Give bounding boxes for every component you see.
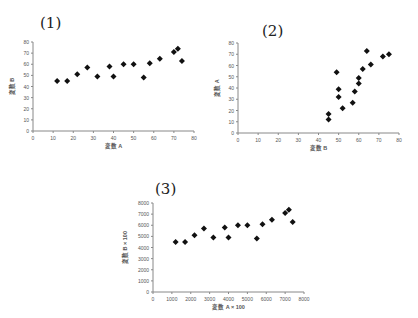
chart-1: 0102030405060708001020304050607080変数 A変数… bbox=[0, 0, 418, 318]
x-axis-label: 変数 B bbox=[310, 144, 328, 152]
data-point-marker bbox=[141, 75, 147, 81]
y-tick-label: 5000 bbox=[138, 233, 149, 239]
x-tick-label: 10 bbox=[255, 137, 261, 143]
y-tick-label: 50 bbox=[23, 72, 29, 78]
data-point-marker bbox=[111, 73, 117, 79]
data-point-marker bbox=[350, 100, 356, 106]
data-point-marker bbox=[226, 234, 232, 240]
data-point-marker bbox=[131, 61, 137, 67]
y-tick-label: 60 bbox=[228, 63, 234, 69]
data-point-marker bbox=[352, 88, 358, 94]
y-tick-label: 7000 bbox=[138, 211, 149, 217]
x-tick-label: 1000 bbox=[166, 296, 177, 302]
y-tick-label: 0 bbox=[146, 289, 149, 295]
data-point-marker bbox=[192, 232, 198, 238]
x-tick-label: 70 bbox=[171, 135, 177, 141]
y-tick-label: 10 bbox=[228, 119, 234, 125]
y-tick-label: 40 bbox=[23, 84, 29, 90]
y-tick-label: 30 bbox=[23, 95, 29, 101]
data-point-marker bbox=[269, 217, 275, 223]
y-axis-label: 変数 B bbox=[8, 78, 16, 96]
data-point-marker bbox=[182, 239, 188, 245]
y-tick-label: 4000 bbox=[138, 245, 149, 251]
x-tick-label: 2000 bbox=[185, 296, 196, 302]
data-point-marker bbox=[326, 111, 332, 117]
x-tick-label: 80 bbox=[191, 135, 197, 141]
data-point-marker bbox=[147, 60, 153, 66]
y-tick-label: 2000 bbox=[138, 267, 149, 273]
y-tick-label: 6000 bbox=[138, 222, 149, 228]
y-tick-label: 30 bbox=[228, 96, 234, 102]
data-point-marker bbox=[106, 63, 112, 69]
x-tick-label: 40 bbox=[111, 135, 117, 141]
x-tick-label: 4000 bbox=[223, 296, 234, 302]
y-tick-label: 80 bbox=[23, 39, 29, 45]
scatter-plot-3: 0100020003000400050006000700080000100020… bbox=[121, 200, 310, 311]
data-point-marker bbox=[360, 66, 366, 72]
x-axis-label: 変数 A bbox=[105, 142, 123, 150]
scatter-plot-2: 0102030405060708001020304050607080変数 B変数… bbox=[213, 40, 402, 152]
y-tick-label: 3000 bbox=[138, 256, 149, 262]
data-point-marker bbox=[175, 46, 181, 52]
y-tick-label: 0 bbox=[231, 130, 234, 136]
data-point-marker bbox=[74, 71, 80, 77]
data-point-marker bbox=[254, 236, 260, 242]
x-tick-label: 30 bbox=[296, 137, 302, 143]
data-point-marker bbox=[171, 49, 177, 55]
data-point-marker bbox=[179, 58, 185, 64]
data-point-marker bbox=[259, 221, 265, 227]
data-point-marker bbox=[336, 94, 342, 100]
y-tick-label: 1000 bbox=[138, 278, 149, 284]
data-point-marker bbox=[290, 219, 296, 225]
data-point-marker bbox=[173, 239, 179, 245]
x-tick-label: 0 bbox=[32, 135, 35, 141]
data-point-marker bbox=[386, 51, 392, 57]
x-tick-label: 8000 bbox=[298, 296, 309, 302]
data-point-marker bbox=[84, 65, 90, 71]
data-point-marker bbox=[210, 234, 216, 240]
data-point-marker bbox=[368, 61, 374, 67]
x-tick-label: 20 bbox=[275, 137, 281, 143]
data-point-marker bbox=[244, 222, 250, 228]
data-point-marker bbox=[336, 86, 342, 92]
x-tick-label: 40 bbox=[316, 137, 322, 143]
y-tick-label: 20 bbox=[228, 108, 234, 114]
y-tick-label: 40 bbox=[228, 85, 234, 91]
x-tick-label: 5000 bbox=[242, 296, 253, 302]
x-tick-label: 70 bbox=[376, 137, 382, 143]
x-axis-label: 変数 A × 100 bbox=[212, 303, 245, 311]
data-point-marker bbox=[326, 117, 332, 123]
data-point-marker bbox=[364, 48, 370, 54]
x-tick-label: 7000 bbox=[280, 296, 291, 302]
x-tick-label: 30 bbox=[91, 135, 97, 141]
x-tick-label: 50 bbox=[336, 137, 342, 143]
data-point-marker bbox=[235, 222, 241, 228]
scatter-plot-1: 0102030405060708001020304050607080変数 A変数… bbox=[8, 39, 197, 150]
data-point-marker bbox=[334, 69, 340, 75]
data-point-marker bbox=[64, 78, 70, 84]
x-tick-label: 0 bbox=[237, 137, 240, 143]
x-tick-label: 60 bbox=[356, 137, 362, 143]
y-tick-label: 70 bbox=[23, 50, 29, 56]
x-tick-label: 20 bbox=[70, 135, 76, 141]
y-tick-label: 70 bbox=[228, 51, 234, 57]
y-axis-label: 変数 B × 100 bbox=[121, 231, 129, 264]
x-tick-label: 50 bbox=[131, 135, 137, 141]
data-point-marker bbox=[201, 226, 207, 232]
y-tick-label: 60 bbox=[23, 61, 29, 67]
data-point-marker bbox=[54, 78, 60, 84]
x-tick-label: 6000 bbox=[261, 296, 272, 302]
x-tick-label: 80 bbox=[396, 137, 402, 143]
y-tick-label: 0 bbox=[26, 128, 29, 134]
data-point-marker bbox=[121, 61, 127, 67]
x-tick-label: 10 bbox=[50, 135, 56, 141]
data-point-marker bbox=[340, 105, 346, 111]
data-point-marker bbox=[356, 75, 362, 81]
data-point-marker bbox=[157, 56, 163, 62]
x-tick-label: 3000 bbox=[204, 296, 215, 302]
x-tick-label: 60 bbox=[151, 135, 157, 141]
data-point-marker bbox=[94, 73, 100, 79]
data-point-marker bbox=[222, 224, 228, 230]
data-point-marker bbox=[356, 81, 362, 87]
y-tick-label: 50 bbox=[228, 74, 234, 80]
